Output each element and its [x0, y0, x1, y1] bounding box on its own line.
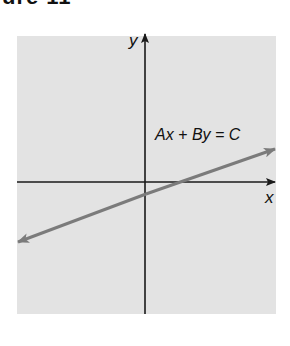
y-axis-label: y — [128, 31, 139, 50]
plot-background — [17, 36, 276, 314]
line-graph: y x Ax + By = C — [0, 0, 290, 346]
x-axis-label: x — [264, 188, 274, 207]
equation-label: Ax + By = C — [154, 126, 241, 143]
